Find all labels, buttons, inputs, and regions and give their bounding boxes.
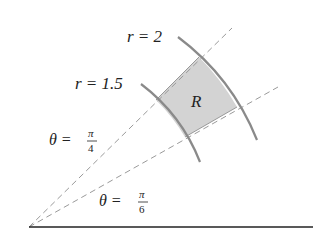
label-r-2: r = 2: [127, 27, 163, 46]
label-theta-pi-4-lhs: θ =: [49, 131, 72, 148]
label-theta-pi-6-lhs: θ =: [99, 192, 122, 209]
label-theta-pi-4-num: π: [88, 127, 94, 139]
label-theta-pi-6-num: π: [139, 188, 145, 200]
label-r-1-5: r = 1.5: [75, 74, 123, 93]
label-region-r: R: [190, 92, 202, 111]
label-theta-pi-4-den: 4: [88, 142, 94, 154]
label-theta-pi-6-den: 6: [139, 203, 145, 215]
polar-region-diagram: r = 2 r = 1.5 R θ = π 4 θ = π 6: [0, 0, 313, 239]
